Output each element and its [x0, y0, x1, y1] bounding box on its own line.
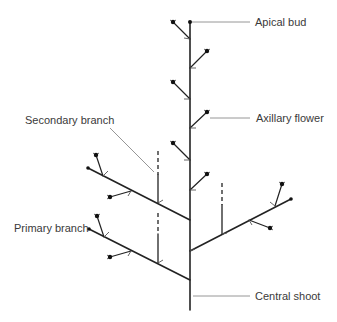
flower-dot [280, 182, 284, 186]
axillary-stalk [110, 251, 131, 257]
axillary-stalk [190, 112, 207, 128]
axillary-stalk [173, 22, 190, 39]
bract-mark [184, 38, 190, 160]
bract-mark [190, 68, 196, 190]
flower-dot [205, 172, 209, 176]
flower-dot [268, 226, 272, 230]
axillary-stalk [173, 143, 190, 160]
secondary-branch-label: Secondary branch [25, 114, 114, 126]
branch-tip-dot [289, 197, 293, 201]
plant-structure-diagram [0, 0, 337, 322]
central-shoot-label: Central shoot [255, 290, 320, 302]
flower-dot [108, 195, 112, 199]
primary-branch-right [190, 199, 291, 251]
branch-tip-dot [86, 166, 90, 170]
flower-dot [171, 20, 175, 24]
flower-dot [108, 255, 112, 259]
flower-dot [95, 214, 99, 218]
axillary-stalk [173, 82, 190, 99]
primary-branch-label: Primary branch [14, 222, 89, 234]
axillary-stalk [190, 51, 207, 68]
flower-dot [205, 110, 209, 114]
flower-dot [171, 141, 175, 145]
apical-bud-dot [188, 20, 192, 24]
axillary-stalk [275, 184, 282, 206]
axillary-stalk [110, 191, 131, 197]
axillary-stalk [249, 220, 270, 228]
axillary-flower-label: Axillary flower [256, 112, 324, 124]
axillary-stalk [190, 174, 207, 190]
flower-dot [94, 153, 98, 157]
flower-dot [171, 80, 175, 84]
secondary-branch-leader [110, 128, 154, 172]
flower-dot [205, 49, 209, 53]
apical-bud-label: Apical bud [255, 16, 306, 28]
